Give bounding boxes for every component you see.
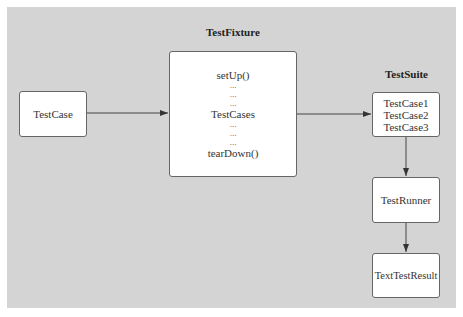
result-label: TextTestResult: [375, 270, 438, 282]
suite-line: TestCase2: [383, 109, 428, 121]
runner-node: TestRunner: [372, 177, 440, 223]
suite-node: TestCase1 TestCase2 TestCase3: [372, 92, 440, 137]
fixture-line: ...: [230, 99, 237, 108]
runner-label: TestRunner: [381, 194, 432, 206]
testcase-node: TestCase: [19, 91, 87, 137]
suite-line: TestCase1: [383, 97, 428, 109]
testcase-label: TestCase: [33, 108, 73, 120]
suite-title: TestSuite: [385, 68, 428, 80]
fixture-title: TestFixture: [206, 26, 260, 38]
suite-line: TestCase3: [383, 121, 428, 133]
result-node: TextTestResult: [372, 253, 440, 298]
fixture-line: ...: [230, 138, 237, 147]
fixture-node: setUp() ... ... ... TestCases ... ... ..…: [169, 51, 297, 177]
fixture-line: tearDown(): [208, 147, 259, 159]
